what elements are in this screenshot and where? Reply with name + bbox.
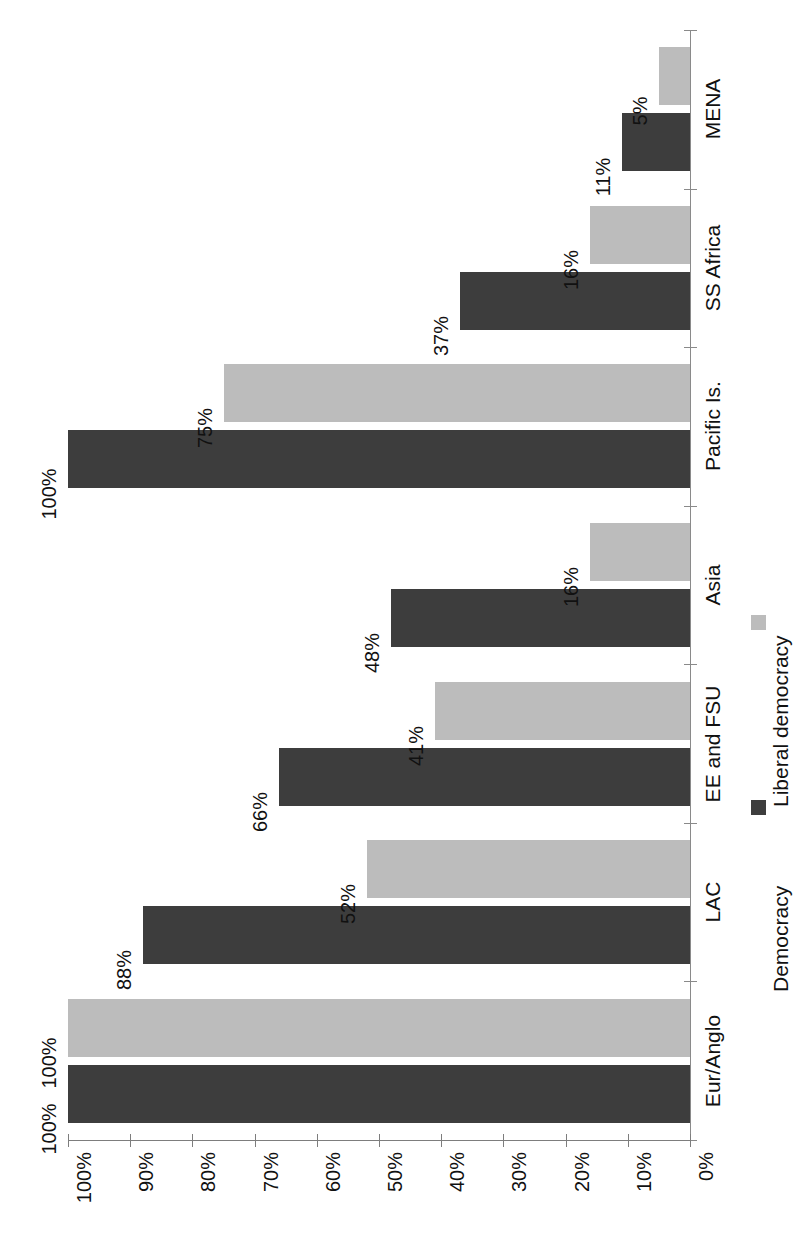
- category-axis-tick: [684, 30, 697, 31]
- legend-swatch-icon: [751, 800, 766, 815]
- legend-swatch-icon: [751, 615, 766, 630]
- chart-legend: DemocracyLiberal democracy: [747, 430, 793, 790]
- value-axis-tick-label: 50%: [387, 1152, 403, 1242]
- value-axis-tick: [255, 1134, 256, 1147]
- bar-value-label: 100%: [38, 448, 60, 540]
- value-axis-tick-label: 40%: [449, 1152, 465, 1242]
- category-axis-tick: [684, 506, 697, 507]
- category-axis-tick: [684, 981, 697, 982]
- category-label-ss-africa: SS Africa: [700, 183, 726, 353]
- value-axis-tick-label: 30%: [511, 1152, 527, 1242]
- value-axis-tick: [379, 1134, 380, 1147]
- bar-value-label: 41%: [405, 700, 427, 792]
- bar-democracy: [68, 1065, 690, 1123]
- value-axis-tick: [566, 1134, 567, 1147]
- plot-area: [0, 30, 691, 1140]
- category-axis-tick: [684, 823, 697, 824]
- bar-value-label: 75%: [194, 382, 216, 474]
- value-axis-tick-label: 60%: [325, 1152, 341, 1242]
- bar-value-label: 48%: [361, 607, 383, 699]
- value-axis-tick-label: 100%: [76, 1152, 92, 1242]
- value-axis-tick: [503, 1134, 504, 1147]
- bar-chart: 100%90%80%70%60%50%40%30%20%10%0% Eur/An…: [0, 0, 799, 1243]
- bar-liberal-democracy: [224, 364, 691, 422]
- bar-democracy: [279, 748, 690, 806]
- bar-liberal-democracy: [68, 999, 690, 1057]
- value-axis-tick: [441, 1134, 442, 1147]
- bar-value-label: 66%: [249, 766, 271, 858]
- bar-value-label: 88%: [113, 924, 135, 1016]
- bar-democracy: [68, 430, 690, 488]
- value-axis-tick-label: 10%: [636, 1152, 652, 1242]
- category-axis-line: [690, 30, 691, 1140]
- bar-democracy: [143, 906, 690, 964]
- bar-liberal-democracy: [367, 840, 690, 898]
- value-axis-tick: [628, 1134, 629, 1147]
- category-label-lac: LAC: [700, 817, 726, 987]
- value-axis-tick-label: 70%: [263, 1152, 279, 1242]
- bar-value-label: 16%: [560, 541, 582, 633]
- bar-liberal-democracy: [590, 523, 690, 581]
- value-axis-tick-label: 0%: [698, 1152, 714, 1242]
- value-axis-tick-label: 80%: [200, 1152, 216, 1242]
- bar-liberal-democracy: [659, 47, 690, 105]
- category-label-pacific-is: Pacific Is.: [700, 341, 726, 511]
- bar-value-label: 37%: [430, 290, 452, 382]
- value-axis-tick-label: 90%: [138, 1152, 154, 1242]
- category-axis-tick: [684, 189, 697, 190]
- legend-label: Liberal democracy: [769, 607, 793, 807]
- category-axis-tick: [684, 347, 697, 348]
- category-label-eur-anglo: Eur/Anglo: [700, 976, 726, 1146]
- bar-value-label: 100%: [38, 1083, 60, 1175]
- value-axis-tick: [130, 1134, 131, 1147]
- value-axis-tick: [68, 1134, 69, 1147]
- value-axis-tick-label: 20%: [574, 1152, 590, 1242]
- category-label-asia: Asia: [700, 500, 726, 670]
- legend-item-liberal-democracy[interactable]: Liberal democracy: [747, 448, 793, 633]
- bar-value-label: 11%: [592, 131, 614, 223]
- bar-value-label: 52%: [337, 858, 359, 950]
- value-axis-tick: [317, 1134, 318, 1147]
- category-axis-tick: [684, 664, 697, 665]
- category-label-ee-and-fsu: EE and FSU: [700, 659, 726, 829]
- category-label-mena: MENA: [700, 24, 726, 194]
- legend-label: Democracy: [769, 792, 793, 992]
- bar-value-label: 5%: [629, 65, 651, 157]
- value-axis-tick: [192, 1134, 193, 1147]
- bar-liberal-democracy: [435, 682, 690, 740]
- bar-democracy: [391, 589, 690, 647]
- value-axis-tick: [690, 1134, 691, 1147]
- bar-value-label: 16%: [560, 224, 582, 316]
